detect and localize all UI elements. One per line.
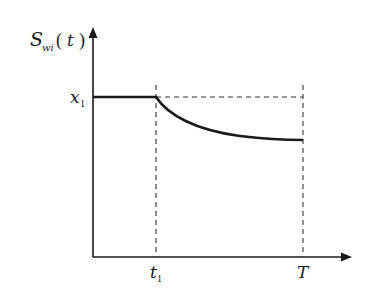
t1-main: t bbox=[150, 262, 157, 282]
T-main: T bbox=[297, 262, 310, 282]
x1-subscript: 1 bbox=[80, 98, 85, 109]
y-label-paren-open: ( bbox=[56, 30, 62, 51]
curve-s-wi bbox=[93, 97, 303, 140]
y-label-paren-close: ) bbox=[79, 30, 85, 51]
x-tick-label-t1: t 1 bbox=[150, 262, 162, 284]
y-label-subscript: wi bbox=[42, 42, 54, 53]
y-tick-label-x1: x 1 bbox=[70, 87, 85, 109]
y-axis-label: S wi ( t ) bbox=[30, 28, 85, 53]
y-label-argument: t bbox=[67, 30, 74, 50]
x-axis-arrow-icon bbox=[341, 253, 352, 262]
t1-subscript: 1 bbox=[157, 273, 162, 284]
x1-main: x bbox=[70, 87, 80, 107]
x-tick-label-T: T bbox=[297, 262, 310, 282]
y-axis-arrow-icon bbox=[89, 27, 98, 38]
diagram-canvas: S wi ( t ) x 1 t 1 T bbox=[0, 0, 374, 295]
